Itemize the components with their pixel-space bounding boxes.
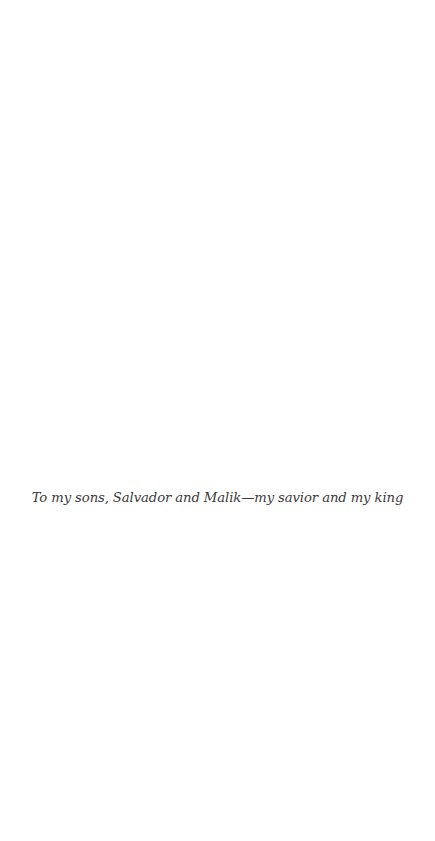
book-page: To my sons, Salvador and Malik—my savior… [0, 0, 435, 841]
dedication-text: To my sons, Salvador and Malik—my savior… [0, 488, 435, 508]
